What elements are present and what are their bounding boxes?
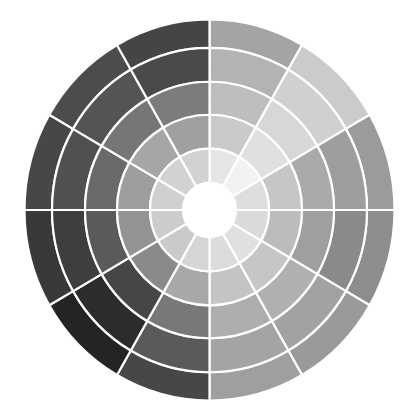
canvas xyxy=(0,0,416,418)
center-hub xyxy=(183,183,236,238)
grayscale-wheel xyxy=(0,0,416,418)
